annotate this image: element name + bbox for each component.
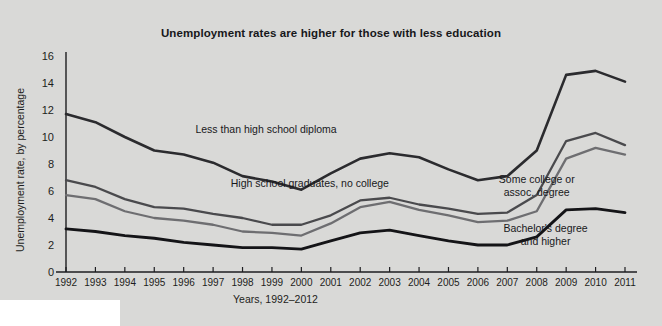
series-line-0 — [66, 71, 625, 190]
y-tick-label: 4 — [48, 212, 54, 224]
y-axis-title: Unemployment rate, by percentage — [14, 88, 26, 252]
x-tick-label: 2005 — [437, 277, 460, 288]
x-tick-label: 2006 — [467, 277, 490, 288]
x-tick-label: 1999 — [261, 277, 284, 288]
x-tick-label: 2009 — [555, 277, 578, 288]
footer-white-block — [0, 300, 120, 326]
x-tick-label: 1994 — [114, 277, 137, 288]
x-tick-label: 2003 — [379, 277, 402, 288]
series-annotation-1: High school graduates, no college — [231, 177, 389, 189]
unemployment-line-chart: Unemployment rates are higher for those … — [0, 0, 662, 326]
x-tick-label: 1992 — [55, 277, 78, 288]
x-tick-label: 2010 — [584, 277, 607, 288]
x-tick-label: 1995 — [143, 277, 166, 288]
x-tick-label: 1996 — [173, 277, 196, 288]
x-tick-label: 1998 — [231, 277, 254, 288]
x-tick-label: 2001 — [320, 277, 343, 288]
y-tick-label: 8 — [48, 158, 54, 170]
y-tick-label: 2 — [48, 239, 54, 251]
y-tick-label: 10 — [42, 131, 54, 143]
x-tick-label: 2002 — [349, 277, 372, 288]
y-tick-label: 12 — [42, 104, 54, 116]
x-tick-label: 2000 — [290, 277, 313, 288]
y-tick-label: 6 — [48, 185, 54, 197]
y-tick-label: 0 — [48, 266, 54, 278]
series-annotation-0: Less than high school diploma — [195, 123, 336, 135]
x-axis: 1992199319941995199619971998199920002001… — [55, 267, 637, 288]
y-tick-label: 14 — [42, 77, 54, 89]
y-tick-label: 16 — [42, 50, 54, 62]
x-tick-label: 2008 — [526, 277, 549, 288]
x-tick-label: 2007 — [496, 277, 519, 288]
y-axis: 0246810121416 — [42, 50, 66, 278]
series-annotation-3: and higher — [521, 235, 571, 247]
series-annotation-2: assoc. degree — [504, 186, 570, 198]
series-labels: Less than high school diplomaHigh school… — [195, 123, 587, 247]
series-annotation-2: Some college or — [499, 173, 575, 185]
x-tick-label: 2004 — [408, 277, 431, 288]
x-axis-title: Years, 1992–2012 — [233, 293, 318, 305]
chart-plot-area: 0246810121416 19921993199419951996199719… — [0, 0, 662, 326]
series-annotation-3: Bachelor's degree — [503, 222, 587, 234]
x-tick-label: 1997 — [202, 277, 225, 288]
x-tick-label: 2011 — [614, 277, 636, 288]
x-tick-label: 1993 — [84, 277, 107, 288]
